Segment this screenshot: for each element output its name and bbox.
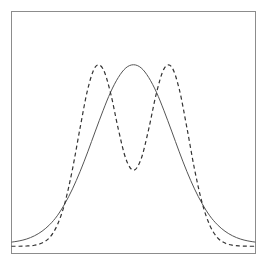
plot-frame — [12, 12, 256, 254]
chart-canvas — [0, 0, 265, 264]
